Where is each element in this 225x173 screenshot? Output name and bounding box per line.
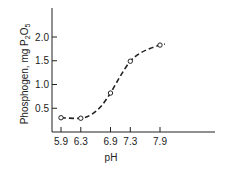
axes bbox=[52, 8, 215, 132]
y-tick-label: 1.0 bbox=[35, 79, 49, 90]
chart: 5.96.36.97.37.9 0.51.01.52.0 pH Phosphog… bbox=[0, 0, 225, 173]
data-point bbox=[128, 59, 132, 63]
x-tick-label: 5.9 bbox=[54, 136, 68, 147]
x-tick-label: 6.9 bbox=[104, 136, 118, 147]
x-axis-label: pH bbox=[105, 152, 118, 163]
y-tick-label: 0.5 bbox=[35, 103, 49, 114]
x-tick-label: 7.9 bbox=[153, 136, 167, 147]
x-tick-label: 6.3 bbox=[74, 136, 88, 147]
x-ticks: 5.96.36.97.37.9 bbox=[54, 127, 167, 147]
y-axis-label: Phosphogen, mg P2O5 bbox=[19, 24, 31, 125]
series-curve bbox=[61, 44, 165, 118]
y-tick-label: 2.0 bbox=[35, 32, 49, 43]
data-point bbox=[59, 116, 63, 120]
y-tick-label: 1.5 bbox=[35, 55, 49, 66]
data-point bbox=[158, 43, 162, 47]
y-ticks: 0.51.01.52.0 bbox=[35, 32, 57, 114]
data-point bbox=[79, 116, 83, 120]
data-point bbox=[108, 91, 112, 95]
x-tick-label: 7.3 bbox=[123, 136, 137, 147]
data-points bbox=[59, 43, 162, 121]
